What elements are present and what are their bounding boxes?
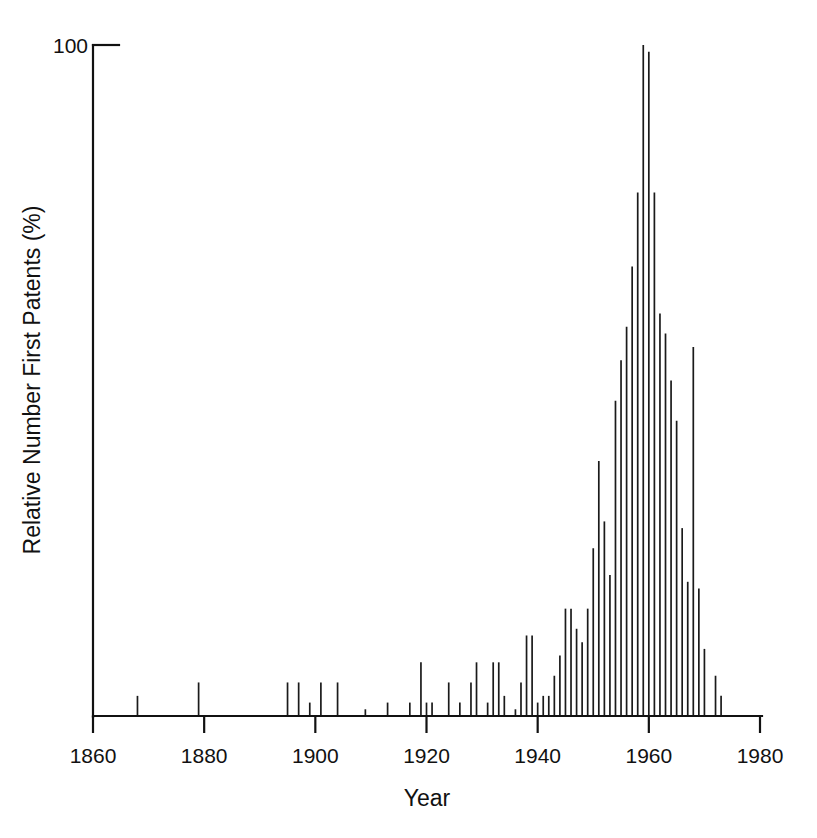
y-axis-tick-label-100: 100 [53, 34, 88, 57]
figure-background [0, 0, 817, 838]
x-axis-tick-label: 1920 [403, 744, 450, 767]
x-axis-tick-label: 1880 [181, 744, 228, 767]
patents-histogram-figure: 1860188019001920194019601980 100 Year Re… [0, 0, 817, 838]
x-axis-tick-label: 1980 [737, 744, 784, 767]
x-axis-tick-label: 1940 [514, 744, 561, 767]
x-axis-tick-label: 1960 [625, 744, 672, 767]
x-axis-title: Year [404, 785, 451, 811]
y-axis-title: Relative Number First Patents (%) [19, 206, 45, 555]
x-axis-tick-label: 1860 [70, 744, 117, 767]
x-axis-tick-label: 1900 [292, 744, 339, 767]
